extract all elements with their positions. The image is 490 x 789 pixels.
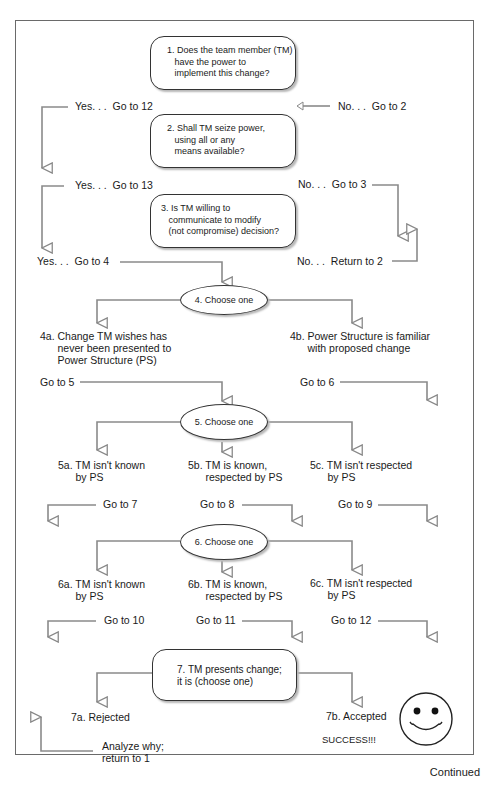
q3-no-label: No. . . Return to 2 — [297, 255, 383, 267]
step-5-ellipse: 5. Choose one — [180, 404, 268, 440]
option-6b: 6b. TM is known, respected by PS — [188, 578, 283, 602]
option-5a: 5a. TM isn't known by PS — [58, 459, 145, 483]
option-5c-go: Go to 9 — [338, 498, 372, 510]
option-5a-go: Go to 7 — [103, 498, 137, 510]
step-4-ellipse: 4. Choose one — [180, 285, 268, 315]
option-5c: 5c. TM isn't respected by PS — [310, 459, 412, 483]
option-6a-go: Go to 10 — [104, 614, 144, 626]
q1-yes-label: Yes. . . Go to 12 — [75, 100, 153, 112]
success-label: SUCCESS!!! — [322, 734, 376, 746]
option-6a: 6a. TM isn't known by PS — [58, 578, 145, 602]
option-6c-go: Go to 12 — [331, 614, 371, 626]
option-5b: 5b. TM is known, respected by PS — [188, 459, 283, 483]
continued-label: Continued — [430, 766, 480, 778]
smiley-face-icon — [398, 691, 454, 747]
question-2-box: 2. Shall TM seize power, using all or an… — [150, 114, 296, 168]
step-7-box: 7. TM presents change; it is (choose one… — [152, 649, 297, 701]
option-4b: 4b. Power Structure is familiar with pro… — [290, 330, 430, 354]
q2-yes-label: Yes. . . Go to 13 — [75, 179, 153, 191]
arrow-yes-12 — [42, 107, 68, 168]
option-4a: 4a. Change TM wishes has never been pres… — [40, 330, 171, 366]
analyze-why-label: Analyze why; return to 1 — [102, 740, 164, 764]
step-6-ellipse: 6. Choose one — [180, 524, 268, 560]
option-4a-go: Go to 5 — [40, 376, 74, 388]
option-7b-accepted: 7b. Accepted — [326, 710, 387, 722]
question-3-box: 3. Is TM willing to communicate to modif… — [150, 194, 296, 248]
q2-no-label: No. . . Go to 3 — [298, 178, 366, 190]
option-5b-go: Go to 8 — [200, 498, 234, 510]
q3-yes-label: Yes. . . Go to 4 — [37, 255, 109, 267]
option-7a-rejected: 7a. Rejected — [71, 711, 130, 723]
option-6c: 6c. TM isn't respected by PS — [310, 577, 412, 601]
option-4b-go: Go to 6 — [300, 376, 334, 388]
question-1-box: 1. Does the team member (TM) have the po… — [150, 36, 296, 90]
q1-no-label: No. . . Go to 2 — [338, 100, 406, 112]
option-6b-go: Go to 11 — [196, 614, 236, 626]
